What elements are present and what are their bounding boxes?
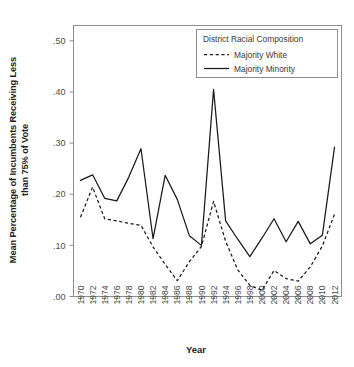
x-tick-group: 1970197219741976197819801982198419861988… [76, 285, 340, 304]
plot-area: .50.40.30.20.10.00 197019721974197619781… [0, 0, 354, 367]
x-tick-label: 1984 [160, 285, 170, 304]
y-tick-label: .20 [53, 189, 66, 199]
x-tick-label: 1972 [88, 285, 98, 304]
legend: District Racial Composition Majority Whi… [197, 30, 338, 78]
y-tick-label: .50 [53, 36, 66, 46]
x-axis-title-text: Year [186, 344, 206, 355]
x-tick-label: 1988 [184, 285, 194, 304]
x-tick-label: 2006 [293, 285, 303, 304]
y-tick-group: .50.40.30.20.10.00 [53, 36, 74, 302]
x-tick-label: 1980 [136, 285, 146, 304]
x-tick-label: 2010 [318, 285, 328, 304]
x-tick-label: 1978 [124, 285, 134, 304]
x-tick-label: 1982 [148, 285, 158, 304]
y-tick-label: .30 [53, 138, 66, 148]
chart-figure: Mean Percentage of Incumbents Receiving … [0, 0, 354, 367]
series-majority-minority [81, 89, 335, 256]
x-tick-label: 1974 [100, 285, 110, 304]
x-axis-title: Year [0, 344, 354, 355]
y-tick-label: .00 [53, 292, 66, 302]
x-tick-label: 1986 [172, 285, 182, 304]
x-tick-label: 2002 [269, 285, 279, 304]
legend-label-majority-minority: Majority Minority [234, 64, 296, 74]
legend-title: District Racial Composition [203, 34, 303, 44]
x-tick-label: 2000 [257, 285, 267, 304]
series-majority-white [81, 187, 335, 290]
x-tick-label: 1990 [197, 285, 207, 304]
x-tick-label: 2004 [281, 285, 291, 304]
x-tick-label: 1992 [209, 285, 219, 304]
x-tick-label: 2008 [305, 285, 315, 304]
x-tick-label: 1998 [245, 285, 255, 304]
x-tick-label: 1996 [233, 285, 243, 304]
y-tick-label: .40 [53, 87, 66, 97]
legend-label-majority-white: Majority White [234, 50, 287, 60]
x-tick-label: 1994 [221, 285, 231, 304]
y-tick-label: .10 [53, 241, 66, 251]
x-tick-label: 2012 [330, 285, 340, 304]
x-tick-label: 1970 [76, 285, 86, 304]
x-tick-label: 1976 [112, 285, 122, 304]
